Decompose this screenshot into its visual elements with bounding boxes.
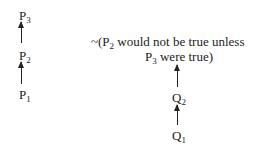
arrow-p1-to-p2-icon: [21, 62, 22, 84]
arrow-q1-to-q2-icon: [177, 105, 178, 125]
node-q2-sub: 2: [181, 97, 186, 107]
node-p1-sub: 1: [26, 94, 31, 104]
statement-line-2-suffix: were true): [157, 49, 213, 64]
node-q2-base: Q: [172, 90, 181, 105]
node-q1-base: Q: [172, 128, 181, 143]
statement-line-1: ~(P2 would not be true unless: [91, 34, 244, 49]
node-p2-sub: 2: [26, 55, 31, 65]
arrow-q2-to-statement-icon: [177, 65, 178, 87]
statement-line-1-prefix: ~(P: [91, 34, 110, 49]
node-p1: P1: [19, 88, 31, 101]
node-p3-sub: 3: [26, 15, 31, 25]
node-q2: Q2: [172, 91, 186, 104]
arrow-p2-to-p3-icon: [21, 22, 22, 43]
statement-line-2: P3 were true): [145, 49, 213, 64]
node-q1: Q1: [172, 129, 186, 142]
statement-line-1-suffix: would not be true unless: [114, 34, 244, 49]
node-q1-sub: 1: [181, 135, 186, 145]
